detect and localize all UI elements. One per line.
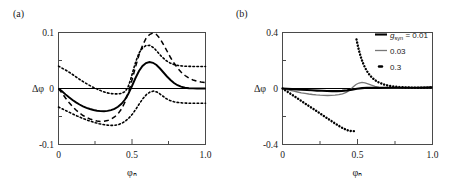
panel-a: (a) 0.1 0 xyxy=(0,0,226,186)
panel-a-xtick-2: 1.0 xyxy=(200,150,212,160)
panel-a-ylabel: Δφ xyxy=(32,83,44,94)
panel-b-ytick-0: 0.4 xyxy=(266,28,278,38)
panel-b-xlabel: φₙ xyxy=(353,167,363,178)
panel-b-x-ticks xyxy=(283,139,433,145)
panel-b-xtick-0: 0 xyxy=(280,150,285,160)
panel-a-ytick-0: 0.1 xyxy=(42,28,54,38)
panel-b-xtick-2: 1.0 xyxy=(427,150,439,160)
legend-g-value: = 0.01 xyxy=(403,31,428,40)
panel-a-xtick-0: 0 xyxy=(56,150,61,160)
legend-g-subscript: syn xyxy=(394,35,403,41)
panel-a-ytick-2: -0.1 xyxy=(39,140,54,150)
panel-b-plot: 0.4 0 -0.4 0 0.5 1.0 Δφ φₙ gsyn = 0.01 xyxy=(227,0,453,186)
panel-a-xlabel: φₙ xyxy=(127,167,137,178)
figure-container: (a) 0.1 0 xyxy=(0,0,453,186)
panel-b-xtick-1: 0.5 xyxy=(352,150,364,160)
legend: gsyn = 0.01 0.03 0.3 xyxy=(375,31,428,72)
panel-b: (b) 0.4 0 xyxy=(227,0,453,186)
panel-b-curve-001 xyxy=(283,87,433,91)
legend-label-003: 0.03 xyxy=(390,47,406,56)
panel-a-xtick-1: 0.5 xyxy=(126,150,138,160)
panel-a-ytick-1: 0 xyxy=(49,84,54,94)
panel-a-x-ticks xyxy=(59,139,206,145)
panel-a-plot: 0.1 0 -0.1 0 0.5 1.0 Δφ φₙ xyxy=(0,0,226,186)
panel-b-ylabel: Δφ xyxy=(254,83,266,94)
panel-a-curve-dashed xyxy=(59,33,206,121)
panel-b-ytick-1: 0 xyxy=(273,84,278,94)
panel-a-curve-dotted-lower xyxy=(59,91,206,125)
panel-b-ytick-2: -0.4 xyxy=(263,140,278,150)
legend-label-03: 0.3 xyxy=(390,63,402,72)
panel-a-curve-solid xyxy=(59,62,206,111)
